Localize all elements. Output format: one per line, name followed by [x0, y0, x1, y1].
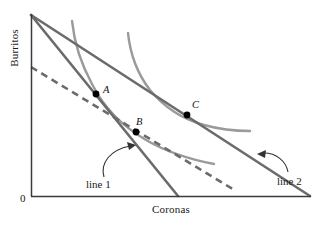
budget-line-2 — [31, 15, 310, 196]
annotation-line-2: line 2 — [277, 175, 302, 187]
origin-label: 0 — [20, 192, 26, 204]
point-label-b: B — [136, 116, 142, 127]
point-label-a: A — [103, 84, 109, 95]
x-axis-label: Coronas — [141, 203, 201, 215]
annotation-line-1: line 1 — [86, 178, 111, 190]
point-label-c: C — [192, 99, 199, 110]
line1-callout-arrow — [103, 146, 130, 177]
y-axis-label: Burritos — [8, 18, 20, 78]
data-point-a — [93, 91, 100, 98]
data-point-b — [133, 129, 140, 136]
line2-callout-arrowhead — [257, 150, 266, 158]
data-point-c — [184, 112, 191, 119]
chart-canvas — [0, 0, 327, 225]
economics-indifference-curve-figure: Burritos Coronas 0 A B C line 1 line 2 — [0, 0, 327, 225]
budget-line-1 — [31, 15, 178, 196]
